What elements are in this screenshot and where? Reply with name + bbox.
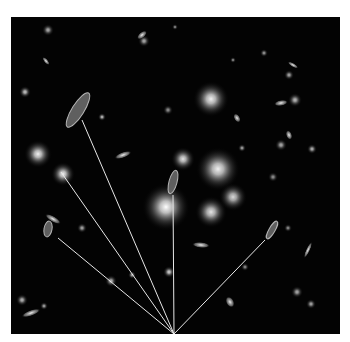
pointer-lines	[11, 17, 340, 334]
line-to-upper-left-arc	[82, 120, 174, 334]
line-to-right-arc	[174, 240, 265, 334]
line-to-center-arc	[173, 195, 174, 334]
line-to-left-galaxy	[61, 172, 174, 334]
line-to-lower-left-arc	[58, 238, 174, 334]
galaxy-cluster-image	[11, 17, 340, 334]
